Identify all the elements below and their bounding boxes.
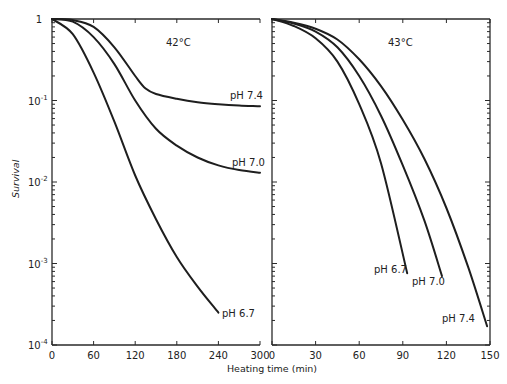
x-tick-label: 150 [480, 350, 499, 361]
y-tick-label: 10-2 [28, 175, 48, 188]
curve-ph6.7 [52, 19, 218, 313]
x-tick-label: 0 [269, 350, 275, 361]
x-tick-label: 120 [126, 350, 145, 361]
right-y-ticks [272, 23, 490, 345]
right-panel: 0306090120150 43°C pH 6.7 pH 7.0 pH 7.4 [269, 19, 500, 361]
curve-ph7.0 [52, 19, 260, 173]
x-axis-title: Heating time (min) [227, 363, 317, 374]
y-tick-label: 10-1 [28, 94, 48, 107]
x-tick-label: 0 [49, 350, 55, 361]
left-y-ticks [52, 23, 57, 345]
x-tick-label: 60 [353, 350, 366, 361]
y-tick-label: 1 [36, 14, 42, 25]
left-label-ph70: pH 7.0 [232, 157, 265, 168]
x-tick-label: 60 [87, 350, 100, 361]
x-tick-label: 300 [250, 350, 269, 361]
left-label-ph67: pH 6.7 [222, 308, 255, 319]
y-axis-title: Survival [10, 159, 21, 198]
right-label-ph67: pH 6.7 [374, 264, 407, 275]
left-panel-title: 42°C [166, 37, 191, 48]
x-tick-label: 30 [309, 350, 322, 361]
x-tick-label: 240 [209, 350, 228, 361]
right-curves [272, 19, 487, 326]
right-label-ph70: pH 7.0 [412, 276, 445, 287]
curve-ph6.7 [272, 19, 407, 273]
curve-ph7.4 [272, 19, 487, 326]
right-x-ticks: 0306090120150 [269, 19, 500, 361]
left-label-ph74: pH 7.4 [230, 90, 263, 101]
left-panel: 060120180240300 42°C pH 7.4 pH 7.0 pH 6.… [49, 19, 270, 361]
curve-ph7.4 [52, 19, 260, 106]
x-tick-label: 180 [167, 350, 186, 361]
left-curves [52, 19, 260, 313]
x-tick-label: 90 [396, 350, 409, 361]
y-tick-label: 10-4 [28, 338, 48, 351]
right-label-ph74: pH 7.4 [442, 313, 475, 324]
x-tick-label: 120 [437, 350, 456, 361]
y-tick-labels: 110-110-210-310-4 [28, 14, 48, 351]
y-tick-label: 10-3 [28, 257, 48, 270]
survival-chart: 060120180240300 42°C pH 7.4 pH 7.0 pH 6.… [0, 0, 507, 384]
right-panel-title: 43°C [388, 37, 413, 48]
